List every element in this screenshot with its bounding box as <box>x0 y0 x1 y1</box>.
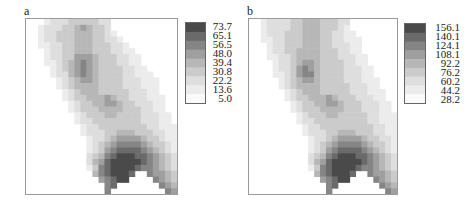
legend-labels-b: 156.1 140.1 124.1 108.1 92.2 76.2 60.2 4… <box>428 23 460 104</box>
heatmap-a <box>25 18 178 195</box>
panel-b-label: b <box>247 5 253 17</box>
panel-a-label: a <box>24 5 29 17</box>
legend-b-label: 28.2 <box>428 95 460 104</box>
heatmap-b <box>248 18 398 195</box>
legend-colorbar-b <box>404 23 426 104</box>
legend-labels-a: 73.7 65.1 56.5 48.0 39.4 30.8 22.2 13.6 … <box>208 22 232 103</box>
legend-colorbar-a <box>185 22 206 104</box>
legend-a-label: 5.0 <box>208 94 232 103</box>
